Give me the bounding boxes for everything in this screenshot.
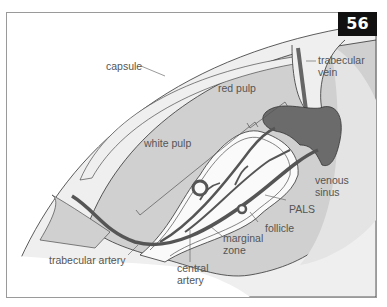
label-venous-sinus-line2: sinus xyxy=(315,186,340,198)
label-white-pulp: white pulp xyxy=(144,137,191,149)
label-marginal-zone-line2: zone xyxy=(223,244,246,256)
label-red-pulp: red pulp xyxy=(218,82,256,94)
label-venous-sinus-line1: venous xyxy=(315,174,349,186)
label-trabecular-artery: trabecular artery xyxy=(49,254,125,266)
label-central-artery-line2: artery xyxy=(177,274,204,286)
label-follicle: follicle xyxy=(265,222,294,234)
label-capsule: capsule xyxy=(106,60,142,72)
label-trabecular-vein-line2: vein xyxy=(318,66,337,78)
follicle-large xyxy=(193,181,207,195)
label-marginal-zone-line1: marginal xyxy=(223,232,263,244)
label-trabecular-vein-line1: trabecular xyxy=(318,54,365,66)
figure-number-badge: 56 xyxy=(338,12,377,36)
label-pals: PALS xyxy=(289,203,315,215)
follicle-small xyxy=(238,205,246,213)
label-central-artery-line1: central xyxy=(177,262,209,274)
